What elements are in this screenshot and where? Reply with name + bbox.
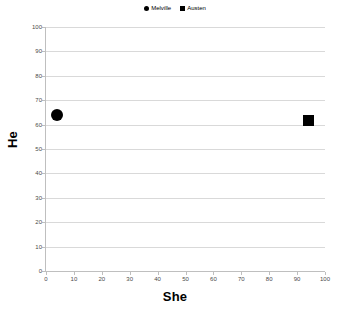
y-tick-label-100: 100 <box>22 24 42 30</box>
x-tick-label-80: 80 <box>259 276 279 282</box>
x-tick-mark-100 <box>325 272 326 275</box>
legend-item-melville[interactable]: Melville <box>144 4 171 12</box>
y-tick-label-70: 70 <box>22 97 42 103</box>
gridline-10 <box>46 247 325 248</box>
y-tick-label-20: 20 <box>22 219 42 225</box>
x-axis-title: She <box>0 289 350 304</box>
x-tick-label-50: 50 <box>176 276 196 282</box>
gridline-100 <box>46 27 325 28</box>
x-tick-label-20: 20 <box>92 276 112 282</box>
y-tick-label-60: 60 <box>22 122 42 128</box>
y-tick-label-30: 30 <box>22 195 42 201</box>
x-tick-mark-60 <box>213 272 214 275</box>
y-tick-label-90: 90 <box>22 48 42 54</box>
gridline-60 <box>46 125 325 126</box>
legend-item-austen[interactable]: Austen <box>180 4 206 12</box>
y-tick-label-10: 10 <box>22 244 42 250</box>
gridline-80 <box>46 76 325 77</box>
x-tick-mark-40 <box>158 272 159 275</box>
x-tick-mark-70 <box>241 272 242 275</box>
plot-area <box>46 27 325 271</box>
gridline-20 <box>46 222 325 223</box>
legend-label-austen: Austen <box>187 4 206 12</box>
y-tick-mark-80 <box>42 76 45 77</box>
x-tick-mark-90 <box>297 272 298 275</box>
gridline-70 <box>46 100 325 101</box>
y-tick-mark-50 <box>42 149 45 150</box>
data-point-melville[interactable] <box>51 109 63 121</box>
x-tick-label-40: 40 <box>148 276 168 282</box>
circle-marker-icon <box>144 6 149 11</box>
x-tick-label-60: 60 <box>203 276 223 282</box>
x-tick-mark-10 <box>74 272 75 275</box>
y-tick-label-40: 40 <box>22 170 42 176</box>
y-tick-mark-40 <box>42 173 45 174</box>
y-tick-mark-20 <box>42 222 45 223</box>
y-tick-mark-70 <box>42 100 45 101</box>
x-tick-label-0: 0 <box>36 276 56 282</box>
gridline-90 <box>46 51 325 52</box>
y-tick-mark-0 <box>42 271 45 272</box>
scatter-chart: Melville Austen 100 90 80 70 <box>0 0 350 313</box>
y-tick-mark-60 <box>42 125 45 126</box>
y-tick-label-0: 0 <box>22 268 42 274</box>
y-tick-mark-10 <box>42 247 45 248</box>
x-tick-label-30: 30 <box>120 276 140 282</box>
data-point-austen[interactable] <box>303 115 314 126</box>
gridline-30 <box>46 198 325 199</box>
y-tick-mark-90 <box>42 51 45 52</box>
y-axis-title: He <box>5 131 20 148</box>
square-marker-icon <box>180 6 185 11</box>
gridline-50 <box>46 149 325 150</box>
chart-legend: Melville Austen <box>0 4 350 12</box>
y-tick-label-80: 80 <box>22 73 42 79</box>
x-tick-label-70: 70 <box>231 276 251 282</box>
x-tick-mark-30 <box>130 272 131 275</box>
legend-label-melville: Melville <box>151 4 171 12</box>
x-tick-label-100: 100 <box>315 276 335 282</box>
y-tick-mark-100 <box>42 27 45 28</box>
gridline-40 <box>46 173 325 174</box>
x-tick-mark-0 <box>46 272 47 275</box>
y-tick-label-50: 50 <box>22 146 42 152</box>
y-tick-mark-30 <box>42 198 45 199</box>
x-tick-mark-50 <box>186 272 187 275</box>
x-tick-label-10: 10 <box>64 276 84 282</box>
x-tick-label-90: 90 <box>287 276 307 282</box>
x-tick-mark-80 <box>269 272 270 275</box>
x-tick-mark-20 <box>102 272 103 275</box>
